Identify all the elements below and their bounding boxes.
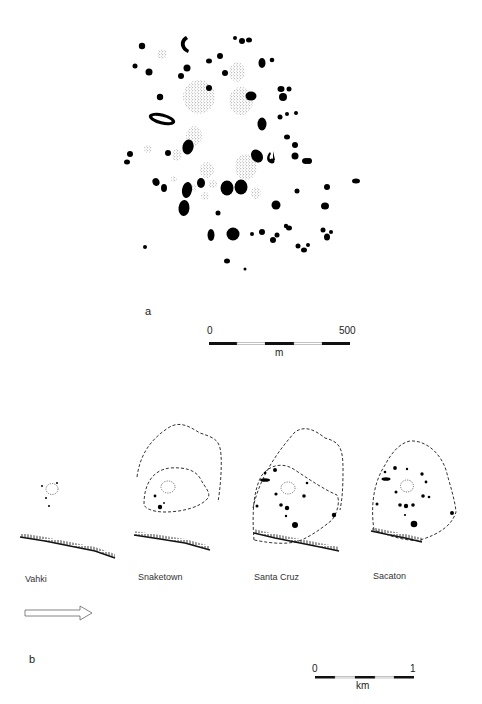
solid-feature bbox=[292, 142, 298, 148]
scale-a-unit-label: m bbox=[275, 347, 283, 358]
terrace-bluff-line bbox=[20, 537, 115, 558]
solid-feature bbox=[285, 112, 289, 116]
solid-feature bbox=[206, 59, 212, 64]
stippled-area bbox=[229, 62, 245, 82]
solid-feature bbox=[306, 158, 312, 164]
solid-feature bbox=[178, 73, 184, 79]
scale-bar-meters bbox=[209, 342, 350, 345]
solid-feature bbox=[133, 64, 138, 69]
solid-feature bbox=[324, 184, 330, 190]
site-snaketown bbox=[134, 424, 221, 550]
site-santa-cruz bbox=[253, 429, 343, 551]
solid-feature bbox=[292, 153, 299, 160]
solid-feature bbox=[216, 211, 221, 216]
scale-a-start-label: 0 bbox=[207, 325, 213, 336]
solid-feature bbox=[146, 69, 153, 76]
flow-direction-arrow bbox=[25, 606, 92, 620]
solid-feature bbox=[224, 259, 230, 264]
site-label-vahki: Vahki bbox=[25, 574, 47, 584]
solid-feature bbox=[143, 245, 147, 249]
solid-feature bbox=[259, 58, 266, 68]
solid-feature bbox=[287, 87, 292, 92]
scale-bar-kilometers bbox=[315, 676, 414, 679]
solid-feature bbox=[184, 65, 191, 72]
solid-feature bbox=[270, 237, 276, 243]
solid-feature bbox=[139, 43, 145, 49]
solid-feature bbox=[127, 151, 133, 157]
stippled-area bbox=[200, 162, 214, 178]
solid-feature bbox=[208, 229, 215, 241]
solid-feature bbox=[306, 243, 310, 247]
scale-b-unit-label: km bbox=[356, 680, 369, 691]
solid-feature bbox=[284, 135, 290, 140]
scale-b-start-label: 0 bbox=[312, 663, 318, 674]
solid-feature bbox=[244, 268, 247, 271]
solid-feature bbox=[270, 58, 275, 63]
stippled-area bbox=[229, 87, 253, 115]
solid-feature bbox=[124, 160, 130, 165]
solid-feature bbox=[352, 179, 360, 184]
site-label-snaketown: Snaketown bbox=[138, 572, 183, 582]
solid-feature bbox=[296, 244, 301, 249]
solid-feature bbox=[284, 224, 288, 228]
solid-feature bbox=[235, 180, 248, 195]
solid-feature bbox=[275, 233, 280, 238]
site-label-sacaton: Sacaton bbox=[373, 571, 406, 581]
solid-feature bbox=[321, 203, 329, 210]
stippled-area bbox=[251, 187, 261, 199]
solid-feature bbox=[233, 36, 237, 40]
panel-b-label: b bbox=[29, 653, 35, 665]
solid-feature bbox=[181, 181, 194, 198]
solid-feature bbox=[227, 228, 240, 241]
solid-feature bbox=[278, 115, 283, 120]
solid-feature bbox=[329, 230, 333, 234]
panel-a-site-plan bbox=[124, 36, 360, 271]
solid-feature bbox=[246, 92, 257, 101]
solid-feature bbox=[272, 201, 281, 210]
solid-feature bbox=[258, 118, 267, 131]
site-label-santa-cruz: Santa Cruz bbox=[254, 572, 299, 582]
solid-feature bbox=[301, 248, 307, 253]
stippled-area bbox=[157, 49, 167, 59]
solid-feature bbox=[197, 178, 205, 188]
stippled-area bbox=[144, 145, 152, 153]
solid-feature bbox=[165, 150, 171, 156]
solid-feature bbox=[278, 86, 285, 92]
solid-feature bbox=[246, 38, 252, 43]
solid-feature bbox=[222, 70, 228, 76]
site-vahki bbox=[20, 482, 115, 558]
site-map-figure bbox=[0, 0, 482, 704]
site-sacaton bbox=[371, 441, 456, 542]
figure: a 0 500 m Vahki Snaketown Santa Cruz Sac… bbox=[0, 0, 482, 704]
stippled-area bbox=[171, 176, 177, 182]
scale-a-end-label: 500 bbox=[339, 325, 356, 336]
solid-feature bbox=[178, 200, 190, 217]
solid-feature bbox=[259, 229, 265, 235]
stippled-area bbox=[201, 192, 209, 200]
panel-a-label: a bbox=[145, 305, 151, 317]
solid-feature bbox=[250, 232, 254, 236]
stippled-area bbox=[209, 180, 217, 188]
solid-feature bbox=[157, 94, 163, 100]
solid-feature bbox=[321, 228, 326, 233]
solid-feature bbox=[217, 53, 223, 59]
solid-feature bbox=[295, 189, 300, 194]
solid-feature bbox=[279, 93, 287, 101]
solid-feature bbox=[161, 184, 167, 192]
crescent-feature bbox=[181, 36, 189, 53]
solid-feature bbox=[324, 234, 330, 241]
solid-feature bbox=[239, 38, 245, 44]
stippled-area bbox=[183, 80, 215, 114]
scale-b-end-label: 1 bbox=[410, 663, 416, 674]
solid-feature bbox=[221, 181, 234, 196]
solid-feature bbox=[151, 177, 160, 187]
solid-feature bbox=[294, 111, 298, 115]
solid-feature bbox=[206, 85, 212, 91]
stippled-area bbox=[172, 149, 182, 161]
ballcourt-ring-feature bbox=[148, 110, 177, 127]
